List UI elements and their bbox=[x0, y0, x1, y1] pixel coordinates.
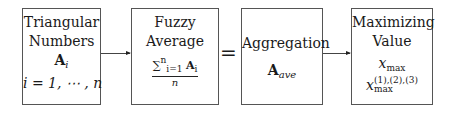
box4-var-xmax-indexed: x(1),(2),(3)max bbox=[352, 76, 432, 94]
box4-title-line2: Value bbox=[352, 32, 432, 51]
box3-symbol: Aave bbox=[242, 61, 322, 84]
box2-title-line2: Average bbox=[132, 32, 218, 51]
box1-title-line1: Triangular bbox=[23, 13, 100, 32]
box2-formula: ∑ni=1 Ai n bbox=[132, 53, 218, 89]
box3-title: Aggregation bbox=[242, 34, 322, 53]
box4-title-line1: Maximizing bbox=[352, 13, 432, 32]
aggregation-box: Aggregation Aave bbox=[241, 8, 323, 105]
arrow-2 bbox=[323, 53, 350, 54]
box2-title-line1: Fuzzy bbox=[132, 13, 218, 32]
box4-var-xmax: xmax bbox=[352, 55, 432, 76]
box1-title-line2: Numbers bbox=[23, 32, 100, 51]
maximizing-value-box: Maximizing Value xmax x(1),(2),(3)max bbox=[351, 8, 433, 105]
arrow-1 bbox=[101, 53, 130, 54]
box1-symbol: Ai bbox=[23, 51, 100, 74]
equals-sign: = bbox=[220, 40, 237, 64]
box1-range: i = 1, ⋯ , n bbox=[23, 74, 100, 93]
average-fraction: ∑ni=1 Ai n bbox=[152, 53, 199, 89]
fuzzy-average-box: Fuzzy Average ∑ni=1 Ai n bbox=[131, 8, 219, 105]
triangular-numbers-box: Triangular Numbers Ai i = 1, ⋯ , n bbox=[22, 8, 101, 105]
